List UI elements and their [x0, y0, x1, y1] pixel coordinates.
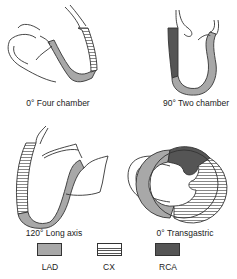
- view-label-four-chamber: 0° Four chamber: [26, 98, 89, 108]
- transgastric-view: [128, 147, 227, 223]
- two-chamber-view: [168, 10, 219, 95]
- legend-swatch-rca: [155, 243, 180, 256]
- long-axis-view: [16, 126, 108, 228]
- legend-swatch-cx: [97, 243, 122, 256]
- legend-label-lad: LAD: [42, 262, 59, 272]
- legend-swatch-lad: [37, 243, 62, 256]
- view-label-transgastric: 0° Transgastric: [157, 228, 214, 238]
- legend-label-cx: CX: [103, 262, 115, 272]
- view-label-long-axis: 120° Long axis: [26, 228, 82, 238]
- four-chamber-view: [8, 5, 97, 82]
- legend-label-rca: RCA: [159, 262, 177, 272]
- view-label-two-chamber: 90° Two chamber: [163, 98, 229, 108]
